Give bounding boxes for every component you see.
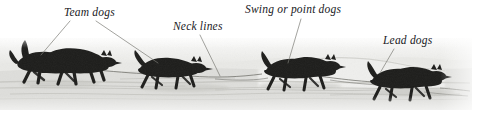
label-team-dogs: Team dogs (64, 7, 115, 19)
label-neck-lines: Neck lines (173, 21, 223, 33)
label-swing-or-point-dogs: Swing or point dogs (245, 4, 341, 16)
dogsled-figure: Team dogs Neck lines Swing or point dogs… (0, 0, 485, 123)
label-lead-dogs: Lead dogs (383, 35, 432, 47)
